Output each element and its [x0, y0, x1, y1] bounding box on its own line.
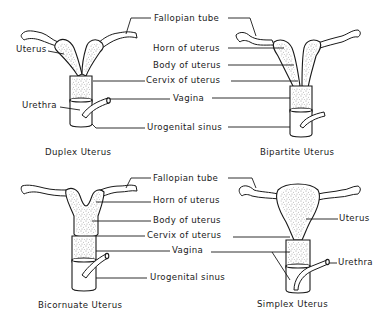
- label-vagina-top: Vagina: [173, 93, 204, 103]
- bipartite-uterus-drawing: [236, 30, 360, 137]
- label-body-top: Body of uterus: [153, 60, 221, 70]
- bipartite-caption: Bipartite Uterus: [260, 147, 335, 157]
- label-urogenital-bottom: Urogenital sinus: [150, 272, 225, 282]
- simplex-uterus-drawing: [239, 184, 360, 293]
- label-horn-bottom: Horn of uterus: [153, 195, 220, 205]
- bicornuate-label-lines: Bicornuate Uterus: [38, 178, 170, 310]
- label-horn-top: Horn of uterus: [153, 43, 220, 53]
- label-cervix-top: Cervix of uterus: [146, 75, 220, 85]
- label-fallopian-tube-top: Fallopian tube: [154, 13, 219, 23]
- bicornuate-caption: Bicornuate Uterus: [38, 300, 123, 310]
- duplex-label-uterus: Uterus: [16, 44, 47, 54]
- bipartite-label-lines: Bipartite Uterus: [212, 18, 335, 157]
- label-vagina-bottom: Vagina: [172, 245, 203, 255]
- bicornuate-uterus-drawing: [21, 185, 137, 291]
- duplex-label-urethra: Urethra: [22, 100, 57, 110]
- label-cervix-bottom: Cervix of uterus: [147, 230, 221, 240]
- simplex-caption: Simplex Uterus: [257, 299, 328, 309]
- label-fallopian-tube-bottom: Fallopian tube: [153, 173, 218, 183]
- label-body-bottom: Body of uterus: [153, 215, 221, 225]
- simplex-label-urethra: Urethra: [338, 257, 373, 267]
- duplex-caption: Duplex Uterus: [45, 147, 112, 157]
- simplex-label-uterus: Uterus: [339, 213, 370, 223]
- center-labels-bottom: Fallopian tube Horn of uterus Body of ut…: [147, 173, 225, 282]
- center-labels-top: Fallopian tube Horn of uterus Body of ut…: [146, 13, 222, 132]
- label-urogenital-top: Urogenital sinus: [147, 122, 222, 132]
- uterus-types-diagram: Fallopian tube Horn of uterus Body of ut…: [0, 0, 385, 321]
